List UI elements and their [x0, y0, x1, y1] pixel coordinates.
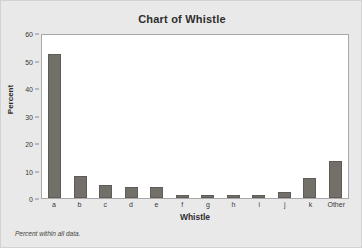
y-axis-tick-label: 60: [25, 31, 33, 38]
x-axis-tick-label: b: [67, 201, 93, 208]
y-axis-tick-label: 50: [25, 58, 33, 65]
x-axis-tick-labels: abcdefghijkOther: [41, 201, 349, 208]
y-axis-tick-label: 20: [25, 141, 33, 148]
bar-a[interactable]: [48, 54, 61, 198]
bar-f[interactable]: [176, 195, 189, 198]
x-axis-tick-label: c: [92, 201, 118, 208]
x-axis-tick-label: h: [221, 201, 247, 208]
bar-slot: [221, 35, 247, 198]
bar-c[interactable]: [99, 185, 112, 198]
x-axis-tick-label: e: [144, 201, 170, 208]
bar-d[interactable]: [125, 187, 138, 198]
bar-slot: [195, 35, 221, 198]
bar-i[interactable]: [252, 195, 265, 198]
y-axis-tick-mark: [35, 144, 39, 145]
bar-Other[interactable]: [329, 161, 342, 198]
bar-h[interactable]: [227, 195, 240, 198]
bar-b[interactable]: [74, 176, 87, 198]
y-axis-tick-mark: [35, 171, 39, 172]
y-axis-tick-mark: [35, 61, 39, 62]
y-axis-tick-mark: [35, 199, 39, 200]
x-axis-tick-label: g: [195, 201, 221, 208]
y-axis-tick-label: 0: [29, 196, 33, 203]
bar-e[interactable]: [150, 187, 163, 198]
chart-footnote: Percent within all data.: [15, 230, 80, 237]
plot-area: [41, 34, 349, 199]
y-axis-tick-mark: [35, 34, 39, 35]
bar-slot: [42, 35, 68, 198]
chart-title: Chart of Whistle: [1, 13, 362, 25]
bar-slot: [93, 35, 119, 198]
bar-slot: [68, 35, 94, 198]
x-axis-tick-label: j: [272, 201, 298, 208]
y-axis-tick-labels: 0102030405060: [1, 34, 39, 199]
bar-j[interactable]: [278, 192, 291, 198]
bar-k[interactable]: [303, 178, 316, 198]
bar-slot: [246, 35, 272, 198]
bar-slot: [323, 35, 349, 198]
x-axis-tick-label: f: [169, 201, 195, 208]
bar-slot: [297, 35, 323, 198]
x-axis-tick-label: Other: [323, 201, 349, 208]
bar-slot: [272, 35, 298, 198]
y-axis-tick-label: 40: [25, 86, 33, 93]
x-axis-tick-label: i: [246, 201, 272, 208]
y-axis-tick-label: 10: [25, 168, 33, 175]
y-axis-tick-label: 30: [25, 113, 33, 120]
x-axis-title: Whistle: [41, 212, 349, 222]
chart-figure: Chart of Whistle Percent 0102030405060 a…: [0, 0, 362, 248]
x-axis-tick-label: k: [298, 201, 324, 208]
x-axis-tick-label: d: [118, 201, 144, 208]
bar-g[interactable]: [201, 195, 214, 198]
bar-slot: [170, 35, 196, 198]
bar-slot: [144, 35, 170, 198]
bar-series: [42, 35, 348, 198]
bar-slot: [119, 35, 145, 198]
y-axis-tick-mark: [35, 89, 39, 90]
x-axis-tick-label: a: [41, 201, 67, 208]
y-axis-tick-mark: [35, 116, 39, 117]
